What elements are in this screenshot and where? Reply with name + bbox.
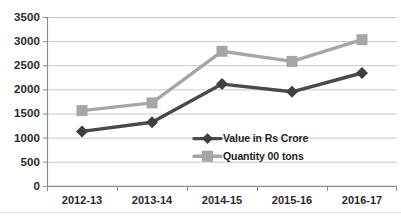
series-value-in-rs-crore — [76, 67, 368, 137]
legend — [194, 133, 221, 162]
y-axis-ticks — [43, 18, 47, 187]
y-tick-label-3500: 3500 — [0, 11, 40, 23]
data-point-value-2012-13 — [76, 125, 88, 137]
legend-marker-square-quantity — [202, 151, 213, 162]
data-point-value-2015-16 — [286, 86, 298, 98]
data-point-value-2016-17 — [356, 67, 368, 79]
x-axis-ticks — [48, 186, 397, 191]
y-tick-label-1500: 1500 — [0, 107, 40, 119]
y-tick-label-500: 500 — [0, 156, 40, 168]
legend-marker-diamond-value — [202, 133, 213, 144]
legend-label-quantity-00-tons: Quantity 00 tons — [223, 150, 304, 162]
y-tick-label-3000: 3000 — [0, 35, 40, 47]
data-point-quantity-2016-17 — [357, 34, 368, 45]
y-tick-label-1000: 1000 — [0, 132, 40, 144]
series-quantity-00-tons — [77, 34, 368, 116]
y-tick-label-0: 0 — [0, 180, 40, 192]
data-point-quantity-2015-16 — [287, 56, 298, 67]
x-tick-label-2016-17: 2016-17 — [327, 194, 397, 206]
y-tick-label-2500: 2500 — [0, 59, 40, 71]
data-point-quantity-2014-15 — [217, 46, 228, 57]
line-chart: 3500 3000 2500 2000 1500 1000 500 0 2012… — [0, 0, 401, 218]
legend-label-value-in-rs-crore: Value in Rs Crore — [223, 132, 308, 144]
y-tick-label-2000: 2000 — [0, 83, 40, 95]
chart-plot-area — [0, 0, 401, 218]
x-tick-label-2015-16: 2015-16 — [257, 194, 327, 206]
x-tick-label-2013-14: 2013-14 — [117, 194, 187, 206]
data-point-quantity-2013-14 — [147, 97, 158, 108]
x-tick-label-2014-15: 2014-15 — [187, 194, 257, 206]
data-point-quantity-2012-13 — [77, 105, 88, 116]
axis-lines — [47, 17, 397, 187]
x-tick-label-2012-13: 2012-13 — [47, 194, 117, 206]
